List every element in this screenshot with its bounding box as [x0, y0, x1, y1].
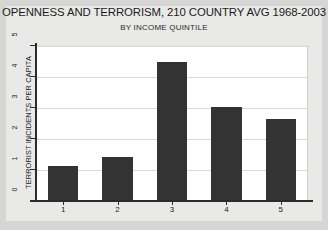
- plot-area: [36, 45, 308, 200]
- y-tick-label: 2: [11, 126, 18, 142]
- y-axis-line: [35, 43, 37, 202]
- bar: [157, 62, 187, 200]
- x-tick-label: 3: [162, 205, 182, 214]
- x-tick-label: 5: [271, 205, 291, 214]
- x-tick-label: 1: [53, 205, 73, 214]
- y-tick-label: 3: [11, 95, 18, 111]
- y-tick-mark: [30, 107, 36, 108]
- y-tick-mark: [30, 76, 36, 77]
- bar: [211, 107, 241, 200]
- x-tick-label: 2: [108, 205, 128, 214]
- x-tick-label: 4: [216, 205, 236, 214]
- chart-figure: OPENNESS AND TERRORISM, 210 COUNTRY AVG …: [0, 0, 328, 230]
- chart-title: OPENNESS AND TERRORISM, 210 COUNTRY AVG …: [0, 6, 328, 18]
- y-tick-label: 1: [11, 157, 18, 173]
- y-tick-label: 0: [11, 188, 18, 204]
- y-tick-mark: [30, 169, 36, 170]
- bar: [102, 157, 132, 200]
- y-tick-mark: [30, 138, 36, 139]
- chart-subtitle: BY INCOME QUINTILE: [0, 23, 328, 32]
- y-tick-mark: [30, 45, 36, 46]
- y-axis-title: TERRORIST INCIDENTS PER CAPITA: [24, 43, 33, 203]
- bar: [266, 119, 296, 200]
- gridline: [36, 46, 307, 47]
- y-tick-label: 4: [11, 64, 18, 80]
- y-tick-label: 5: [11, 33, 18, 49]
- bar: [48, 166, 78, 200]
- y-tick-mark: [30, 200, 36, 201]
